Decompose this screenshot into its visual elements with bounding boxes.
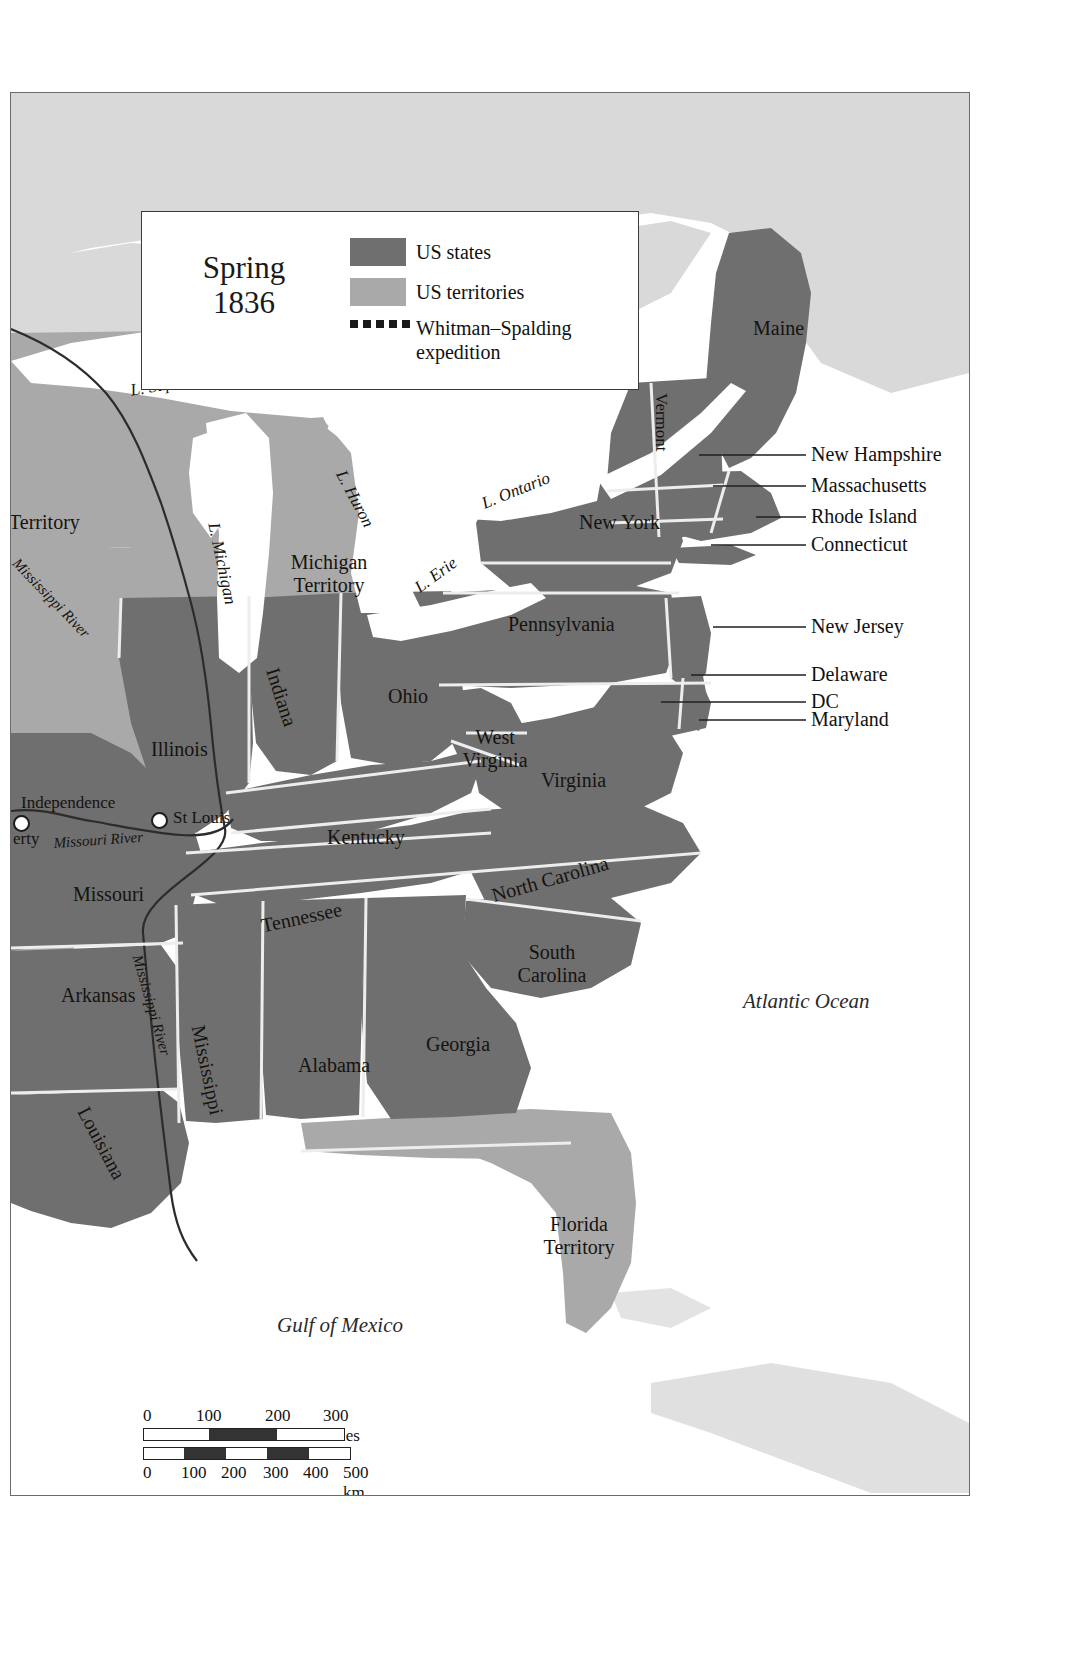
scale-mile-tick-0: 0 [143, 1406, 152, 1426]
label-independence: Independence [21, 793, 115, 813]
scale-km-tick-500: 500 km [343, 1463, 369, 1496]
legend-title: Spring 1836 [164, 250, 324, 320]
label-georgia: Georgia [426, 1033, 490, 1056]
legend-label-us-territories: US territories [416, 280, 524, 304]
label-pennsylvania: Pennsylvania [508, 613, 615, 636]
callout-delaware: Delaware [811, 663, 888, 686]
label-michigan-territory: Michigan Territory [269, 551, 389, 597]
map-legend: Spring 1836 US states US territories Whi… [141, 211, 639, 390]
label-florida-territory: Florida Territory [529, 1213, 629, 1259]
scale-km-ticks: 0 100 200 300 400 500 km [143, 1463, 351, 1485]
label-liberty: erty [13, 829, 39, 849]
label-kentucky: Kentucky [327, 826, 405, 849]
label-illinois: Illinois [151, 738, 208, 761]
scale-mile-tick-100: 100 [196, 1406, 222, 1426]
scale-bar-km [143, 1447, 351, 1460]
scale-km-tick-0: 0 [143, 1463, 152, 1483]
label-south-carolina: South Carolina [506, 941, 598, 987]
scale-km-tick-100: 100 [181, 1463, 207, 1483]
label-vermont: Vermont [651, 393, 671, 452]
label-territory: Territory [10, 511, 80, 534]
callout-new-hampshire: New Hampshire [811, 443, 942, 466]
callout-massachusetts: Massachusetts [811, 474, 927, 497]
scale-bar: 0 100 200 300 miles 0 100 200 300 400 50… [143, 1406, 351, 1485]
scale-bar-miles [143, 1428, 345, 1441]
city-dot-independence [13, 815, 30, 832]
scale-km-tick-300: 300 [263, 1463, 289, 1483]
label-atlantic-ocean: Atlantic Ocean [743, 989, 870, 1014]
label-virginia: Virginia [541, 769, 606, 792]
label-gulf-of-mexico: Gulf of Mexico [277, 1313, 403, 1338]
callout-connecticut: Connecticut [811, 533, 908, 556]
legend-label-us-states: US states [416, 240, 491, 264]
label-maine: Maine [753, 317, 804, 340]
label-west-virginia: West Virginia [451, 726, 539, 772]
scale-km-tick-200: 200 [221, 1463, 247, 1483]
callout-maryland: Maryland [811, 708, 889, 731]
label-arkansas: Arkansas [61, 984, 135, 1007]
label-new-york: New York [579, 511, 660, 534]
legend-swatch-us-territories [350, 278, 406, 306]
map-frame: Spring 1836 US states US territories Whi… [10, 92, 970, 1496]
map-page: Spring 1836 US states US territories Whi… [0, 0, 1069, 1656]
scale-miles-ticks: 0 100 200 300 miles [143, 1406, 351, 1428]
label-st-louis: St Louis [173, 808, 230, 828]
city-dot-st-louis [151, 812, 168, 829]
label-ohio: Ohio [388, 685, 428, 708]
label-missouri: Missouri [73, 883, 144, 906]
legend-dotted-line-icon [350, 320, 408, 328]
legend-year: 1836 [164, 285, 324, 320]
legend-swatch-us-states [350, 238, 406, 266]
scale-km-tick-400: 400 [303, 1463, 329, 1483]
legend-label-expedition: Whitman–Spalding expedition [416, 316, 626, 364]
callout-new-jersey: New Jersey [811, 615, 904, 638]
callout-rhode-island: Rhode Island [811, 505, 917, 528]
scale-mile-tick-200: 200 [265, 1406, 291, 1426]
legend-season: Spring [203, 250, 286, 285]
label-alabama: Alabama [298, 1054, 370, 1077]
